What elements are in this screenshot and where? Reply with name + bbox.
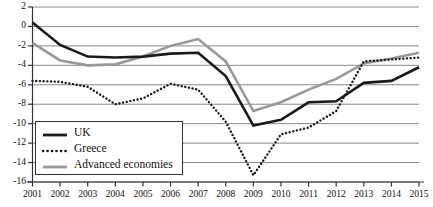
y-tick-label: -12 <box>0 138 26 148</box>
gray-line-swatch <box>42 159 68 171</box>
x-tick-label: 2015 <box>402 190 433 200</box>
y-tick-label: -10 <box>0 119 26 129</box>
legend-label: Greece <box>74 143 107 155</box>
y-tick-label: 2 <box>0 2 26 12</box>
y-tick-label: -4 <box>0 60 26 70</box>
y-tick-label: -6 <box>0 80 26 90</box>
chart-legend: UKGreeceAdvanced economies <box>35 121 183 175</box>
legend-label: UK <box>74 127 91 139</box>
legend-item-uk: UK <box>36 125 182 141</box>
legend-item-advanced-economies: Advanced economies <box>36 157 182 173</box>
y-tick-label: -2 <box>0 41 26 51</box>
y-tick-label: -16 <box>0 177 26 187</box>
legend-item-greece: Greece <box>36 141 182 157</box>
solid-line-swatch <box>42 127 68 139</box>
y-tick-label: 0 <box>0 21 26 31</box>
y-tick-label: -8 <box>0 99 26 109</box>
y-tick-label: -14 <box>0 158 26 168</box>
series-line-uk <box>33 23 420 126</box>
dotted-line-swatch <box>42 143 68 155</box>
legend-label: Advanced economies <box>74 159 173 171</box>
